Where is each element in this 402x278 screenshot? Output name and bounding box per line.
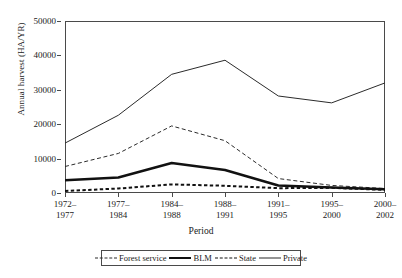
- x-tick-mark: [225, 193, 226, 197]
- x-tick-label: 2000–2002: [355, 199, 402, 221]
- y-tick-label: 10000: [34, 154, 57, 164]
- y-tick-mark: [57, 90, 61, 91]
- legend-swatch-icon: [95, 255, 117, 261]
- y-tick-mark: [57, 159, 61, 160]
- x-tick-label: 1995–2000: [302, 199, 362, 221]
- x-tick-label: 1991–1995: [248, 199, 308, 221]
- plot-svg: [65, 21, 385, 193]
- legend-swatch-icon: [259, 255, 281, 261]
- y-tick-label: 20000: [34, 119, 57, 129]
- y-tick-label: 0: [52, 188, 57, 198]
- legend-item-state[interactable]: State: [215, 253, 256, 263]
- y-tick-mark: [57, 193, 61, 194]
- x-tick-label: 1984–1988: [142, 199, 202, 221]
- y-tick-mark: [57, 21, 61, 22]
- legend-swatch-icon: [215, 255, 237, 261]
- chart-figure: Annual harvest (HA/YR) 01000020000300004…: [0, 0, 402, 278]
- chart-legend: Forest serviceBLMStatePrivate: [101, 250, 301, 266]
- x-tick-label: 1972–1977: [35, 199, 95, 221]
- x-axis-title: Period: [0, 226, 402, 236]
- plot-frame: [66, 22, 385, 193]
- y-tick-mark: [57, 124, 61, 125]
- y-tick-label: 50000: [34, 16, 57, 26]
- legend-label: State: [239, 253, 256, 263]
- x-tick-mark: [332, 193, 333, 197]
- legend-swatch-icon: [169, 255, 191, 261]
- x-tick-label: 1988–1991: [195, 199, 255, 221]
- x-tick-label: 1977–1984: [88, 199, 148, 221]
- legend-item-blm[interactable]: BLM: [169, 253, 211, 263]
- legend-label: Forest service: [119, 253, 166, 263]
- legend-label: Private: [283, 253, 307, 263]
- x-tick-mark: [385, 193, 386, 197]
- y-tick-label: 40000: [34, 50, 57, 60]
- legend-item-forest-service[interactable]: Forest service: [95, 253, 166, 263]
- y-axis-tick-labels: 01000020000300004000050000: [0, 0, 61, 200]
- x-tick-mark: [118, 193, 119, 197]
- x-tick-mark: [65, 193, 66, 197]
- plot-area: [65, 21, 385, 193]
- legend-label: BLM: [193, 253, 211, 263]
- legend-item-private[interactable]: Private: [259, 253, 307, 263]
- y-tick-label: 30000: [34, 85, 57, 95]
- x-tick-mark: [172, 193, 173, 197]
- y-tick-mark: [57, 55, 61, 56]
- x-tick-mark: [278, 193, 279, 197]
